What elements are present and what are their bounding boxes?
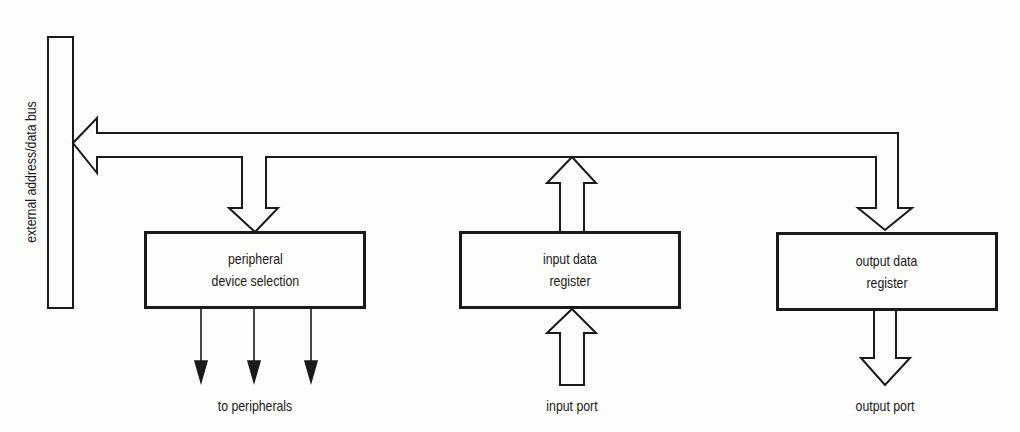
arrowhead-down-icon (195, 361, 207, 382)
bus-arrow (73, 118, 912, 232)
input-port-label: input port (523, 395, 621, 416)
input-register-to-bus-arrow (547, 157, 596, 232)
arrowhead-down-icon (248, 361, 260, 382)
input-data-register-block: input data register (459, 231, 681, 309)
block-line: register (866, 272, 907, 294)
output-data-register-block: output data register (776, 232, 998, 311)
to-peripherals-label: to peripherals (194, 395, 317, 416)
block-line: peripheral (228, 248, 283, 270)
diagram-canvas (0, 0, 1020, 432)
input-port-arrow (547, 309, 596, 385)
arrowhead-down-icon (305, 361, 317, 382)
peripheral-device-selection-block: peripheral device selection (144, 231, 366, 309)
external-bus-bar (48, 37, 73, 308)
block-line: register (549, 270, 590, 292)
output-port-arrow (861, 310, 910, 385)
block-line: input data (543, 248, 597, 270)
block-line: device selection (211, 270, 299, 292)
block-line: output data (856, 250, 918, 272)
output-port-label: output port (836, 395, 934, 416)
